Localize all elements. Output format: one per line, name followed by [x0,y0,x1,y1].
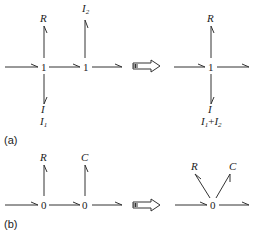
junction-0-a: 0 [41,199,47,211]
label-C: C [229,160,237,172]
label-R: R [39,12,47,24]
junction-0-b: 0 [82,199,88,211]
panel-a-left: 1 1 R I2 I I1 [5,2,122,129]
label-I: I [207,103,213,115]
label-R: R [190,160,198,172]
bond-graph-diagram: 1 1 R I2 I I1 1 R [0,0,258,235]
transform-arrow-b [133,199,160,211]
panel-b-left: 0 0 R C [5,151,122,211]
label-R: R [39,151,47,163]
label-I1-plus-I2: I1+I2 [200,115,222,129]
junction-1-b: 1 [83,61,89,73]
label-C: C [81,151,89,163]
caption-b: (b) [4,218,17,230]
junction-0: 0 [210,199,216,211]
panel-b-right: 0 R C [175,160,249,211]
junction-1-a: 1 [41,61,47,73]
label-R: R [206,12,214,24]
caption-a: (a) [4,134,17,146]
junction-1: 1 [208,61,214,73]
label-I: I [40,103,46,115]
label-I1: I1 [39,115,47,129]
transform-arrow-a [133,60,160,72]
bond-C [216,174,230,198]
bond-R [195,174,210,198]
label-I2: I2 [81,2,90,16]
panel-a-right: 1 R I I1+I2 [174,12,249,129]
